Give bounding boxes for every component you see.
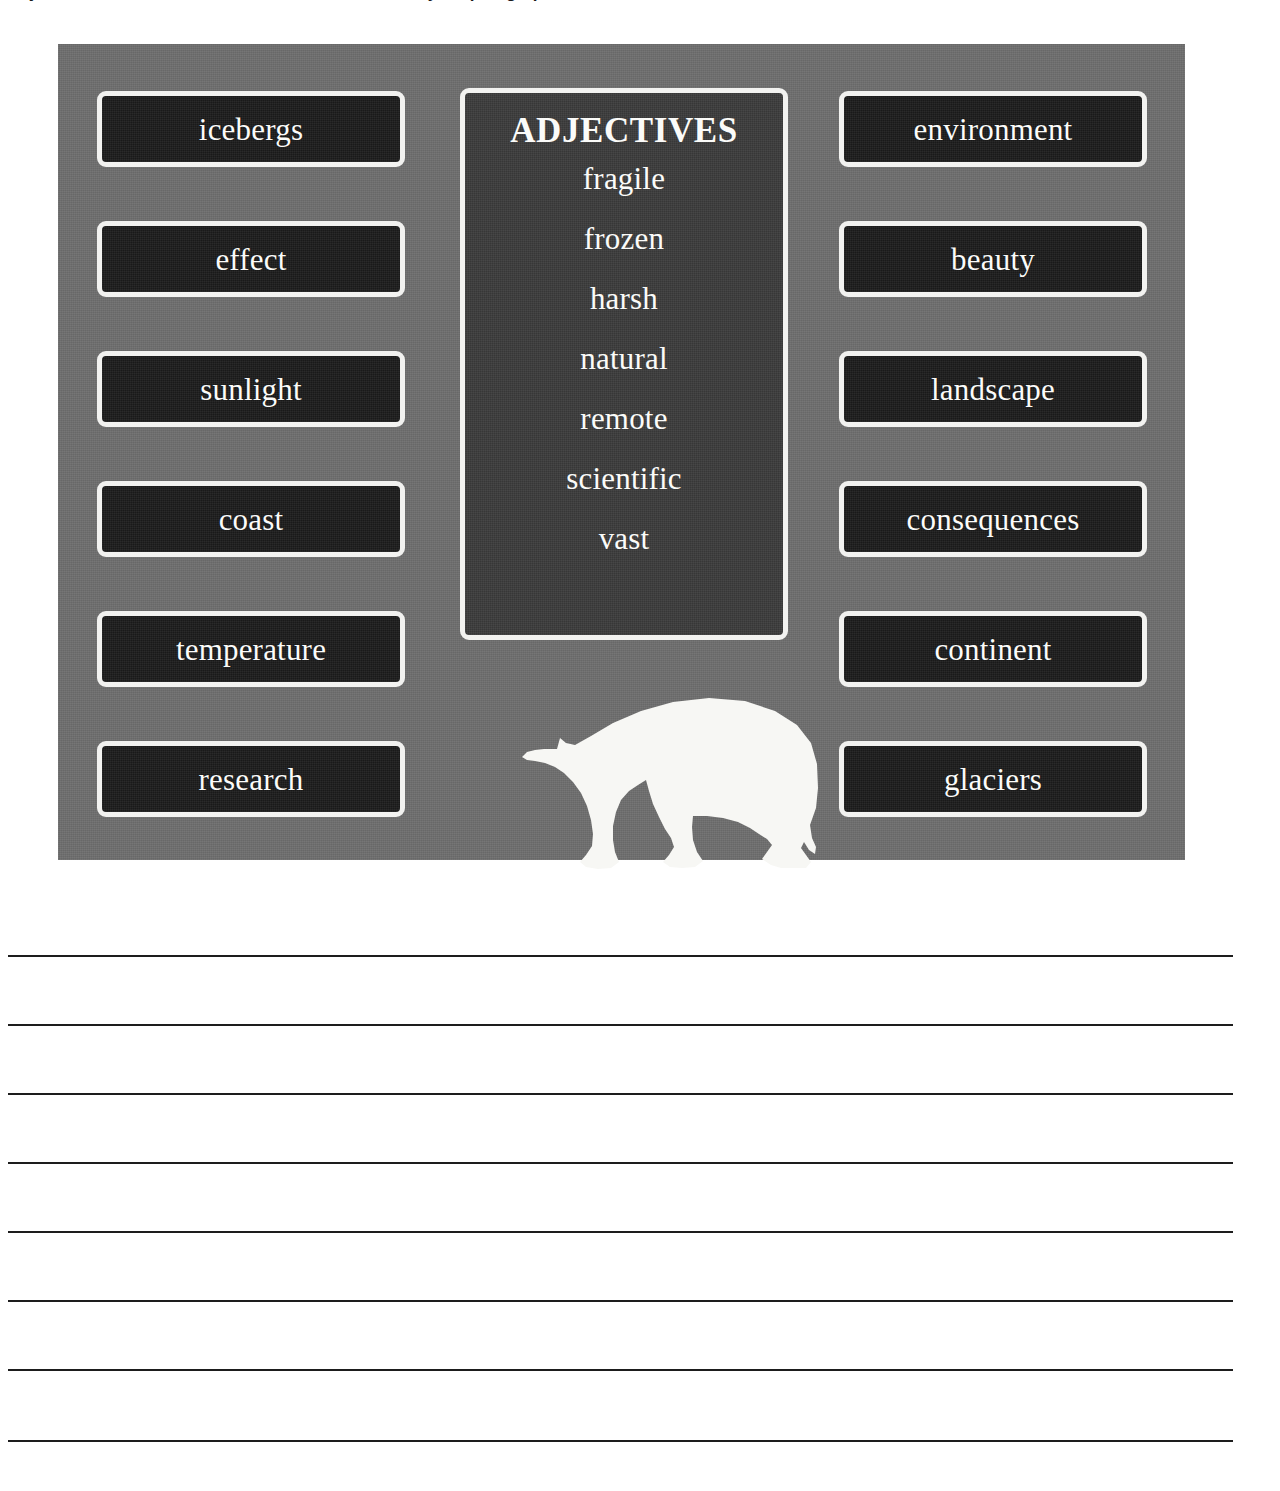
- writing-lines-area[interactable]: [0, 860, 1280, 1491]
- word-box-beauty[interactable]: beauty: [839, 221, 1147, 297]
- word-bank-poster: icebergs effect sunlight coast temperatu…: [58, 44, 1185, 860]
- word-box-label: research: [199, 764, 304, 795]
- word-box-label: consequences: [907, 504, 1080, 535]
- word-box-label: icebergs: [199, 114, 303, 145]
- word-box-continent[interactable]: continent: [839, 611, 1147, 687]
- adjective-item-vast[interactable]: vast: [599, 523, 650, 554]
- word-bank-left-column: icebergs effect sunlight coast temperatu…: [97, 91, 405, 817]
- word-box-icebergs[interactable]: icebergs: [97, 91, 405, 167]
- writing-line-5[interactable]: [8, 1231, 1233, 1233]
- adjectives-panel-title: ADJECTIVES: [510, 113, 738, 148]
- word-box-label: sunlight: [200, 374, 302, 405]
- word-box-label: beauty: [951, 244, 1035, 275]
- writing-line-8[interactable]: [8, 1440, 1233, 1442]
- writing-line-6[interactable]: [8, 1300, 1233, 1302]
- word-box-label: effect: [215, 244, 286, 275]
- word-box-label: glaciers: [944, 764, 1042, 795]
- writing-line-2[interactable]: [8, 1024, 1233, 1026]
- word-box-label: environment: [914, 114, 1073, 145]
- word-box-label: continent: [934, 634, 1051, 665]
- polar-bear-icon: [513, 692, 843, 887]
- adjectives-panel: ADJECTIVES fragile frozen harsh natural …: [460, 88, 788, 640]
- writing-line-7[interactable]: [8, 1369, 1233, 1371]
- writing-line-4[interactable]: [8, 1162, 1233, 1164]
- word-box-label: temperature: [176, 634, 326, 665]
- adjective-item-fragile[interactable]: fragile: [583, 163, 665, 194]
- writing-line-3[interactable]: [8, 1093, 1233, 1095]
- adjective-item-frozen[interactable]: frozen: [584, 223, 664, 254]
- word-box-glaciers[interactable]: glaciers: [839, 741, 1147, 817]
- word-box-landscape[interactable]: landscape: [839, 351, 1147, 427]
- word-bank-right-column: environment beauty landscape consequence…: [839, 91, 1147, 817]
- word-box-research[interactable]: research: [97, 741, 405, 817]
- adjective-item-natural[interactable]: natural: [580, 343, 667, 374]
- word-box-label: coast: [219, 504, 284, 535]
- word-box-temperature[interactable]: temperature: [97, 611, 405, 687]
- word-box-coast[interactable]: coast: [97, 481, 405, 557]
- word-box-effect[interactable]: effect: [97, 221, 405, 297]
- word-box-consequences[interactable]: consequences: [839, 481, 1147, 557]
- clipped-instruction-text: adjectives and nouns from the word bank …: [10, 0, 1270, 7]
- word-box-sunlight[interactable]: sunlight: [97, 351, 405, 427]
- word-box-environment[interactable]: environment: [839, 91, 1147, 167]
- word-box-label: landscape: [931, 374, 1055, 405]
- writing-line-1[interactable]: [8, 955, 1233, 957]
- adjective-item-scientific[interactable]: scientific: [566, 463, 682, 494]
- adjective-item-harsh[interactable]: harsh: [590, 283, 658, 314]
- adjective-item-remote[interactable]: remote: [580, 403, 667, 434]
